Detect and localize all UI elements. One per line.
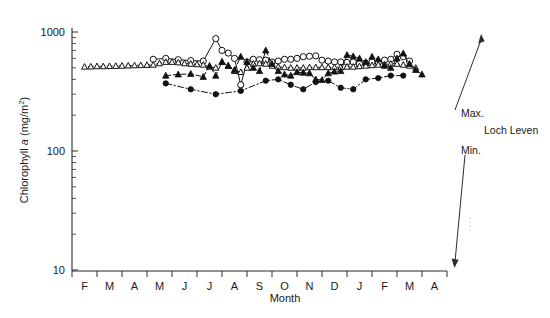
data-point-filled-circle xyxy=(213,92,218,97)
x-tick-label: J xyxy=(207,280,213,292)
data-point-open-triangle xyxy=(400,62,406,68)
chlorophyll-time-series-chart: 100010010 FMAMJJASONDJFMA Month Chloroph… xyxy=(0,0,550,318)
data-point-open-circle xyxy=(300,54,306,60)
data-point-filled-circle xyxy=(401,73,406,78)
y-axis-group: 100010010 xyxy=(41,26,78,276)
data-point-filled-triangle xyxy=(256,68,262,74)
data-point-open-circle xyxy=(238,82,244,88)
x-tick-label: F xyxy=(381,280,388,292)
data-point-filled-circle xyxy=(338,85,343,90)
data-point-filled-circle xyxy=(351,87,356,92)
data-point-filled-triangle xyxy=(344,52,350,58)
data-point-open-circle xyxy=(319,57,325,63)
data-point-filled-triangle xyxy=(213,72,219,78)
x-tick-label: N xyxy=(306,280,314,292)
data-point-open-circle xyxy=(294,55,300,61)
min-label: Min. xyxy=(461,144,481,156)
x-tick-label: A xyxy=(431,280,439,292)
x-axis-ticks xyxy=(72,271,447,277)
data-point-filled-circle xyxy=(363,77,368,82)
x-axis-title: Month xyxy=(270,292,301,304)
data-point-filled-triangle xyxy=(400,50,406,56)
data-point-open-triangle xyxy=(82,64,88,70)
x-tick-label: J xyxy=(182,280,188,292)
data-point-filled-circle xyxy=(263,78,268,83)
max-label: Max. xyxy=(461,107,484,119)
y-title-suffix: (mg/m xyxy=(18,105,30,139)
data-point-open-triangle xyxy=(132,62,138,68)
x-tick-label: M xyxy=(155,280,164,292)
min-arrow-head xyxy=(452,258,459,268)
data-point-open-circle xyxy=(219,47,225,53)
max-arrow-line xyxy=(455,40,481,110)
y-tick-label: 100 xyxy=(47,145,65,157)
data-point-open-triangle xyxy=(150,62,156,68)
x-tick-label: M xyxy=(405,280,414,292)
data-point-open-circle xyxy=(281,56,287,62)
y-title-prefix: Chlorophyll xyxy=(18,145,30,203)
data-point-filled-circle xyxy=(238,88,243,93)
y-tick-label: 1000 xyxy=(41,26,65,38)
data-point-filled-triangle xyxy=(419,71,425,77)
data-point-filled-triangle xyxy=(219,59,225,65)
data-point-open-circle xyxy=(225,50,231,56)
y-axis-ticks xyxy=(72,32,78,270)
x-tick-label: D xyxy=(331,280,339,292)
x-tick-label: S xyxy=(256,280,263,292)
data-point-filled-circle xyxy=(276,77,281,82)
data-point-filled-circle xyxy=(326,78,331,83)
site-label: Loch Leven xyxy=(484,124,538,136)
y-axis-title: Chlorophyll a (mg/m2) xyxy=(17,97,31,204)
x-tick-label: O xyxy=(280,280,289,292)
range-annotation-group: Max. Loch Leven Min. xyxy=(452,34,539,268)
data-point-open-circle xyxy=(231,55,237,61)
x-tick-label: F xyxy=(81,280,88,292)
x-axis-group: FMAMJJASONDJFMA xyxy=(72,271,447,292)
data-point-open-triangle xyxy=(94,63,100,69)
data-point-filled-triangle xyxy=(281,71,287,77)
x-tick-label: A xyxy=(231,280,239,292)
x-tick-label: M xyxy=(105,280,114,292)
data-point-open-circle xyxy=(313,53,319,59)
data-point-filled-triangle xyxy=(369,53,375,59)
data-point-filled-triangle xyxy=(175,71,181,77)
data-point-filled-triangle xyxy=(263,47,269,53)
data-point-filled-circle xyxy=(313,79,318,84)
data-series-layer xyxy=(82,36,426,97)
data-point-open-circle xyxy=(306,53,312,59)
data-point-open-circle xyxy=(213,36,219,42)
data-point-filled-triangle xyxy=(225,62,231,68)
max-arrow-head xyxy=(478,34,484,44)
data-point-filled-circle xyxy=(376,75,381,80)
x-axis-tick-labels: FMAMJJASONDJFMA xyxy=(81,280,439,292)
svg-text:Chlorophyll a (mg/m2): Chlorophyll a (mg/m2) xyxy=(17,97,31,204)
data-point-filled-triangle xyxy=(206,62,212,68)
y-title-tail: ) xyxy=(18,97,30,101)
min-arrow-line xyxy=(455,155,465,262)
x-tick-label: A xyxy=(131,280,139,292)
data-point-open-triangle xyxy=(313,64,319,70)
data-point-filled-circle xyxy=(301,87,306,92)
data-point-filled-triangle xyxy=(188,70,194,76)
data-point-open-triangle xyxy=(282,64,288,70)
data-point-filled-circle xyxy=(163,81,168,86)
data-point-filled-circle xyxy=(388,73,393,78)
data-point-open-circle xyxy=(288,56,294,62)
series-open-circle-solid xyxy=(150,36,412,88)
data-point-filled-triangle xyxy=(238,53,244,59)
data-point-open-triangle xyxy=(113,63,119,69)
chart-figure: 100010010 FMAMJJASONDJFMA Month Chloroph… xyxy=(0,0,550,318)
y-tick-label: 10 xyxy=(53,264,65,276)
data-point-open-triangle xyxy=(244,65,250,71)
data-point-filled-circle xyxy=(188,87,193,92)
y-axis-tick-labels: 100010010 xyxy=(41,26,65,276)
x-tick-label: J xyxy=(357,280,363,292)
data-point-filled-circle xyxy=(288,82,293,87)
